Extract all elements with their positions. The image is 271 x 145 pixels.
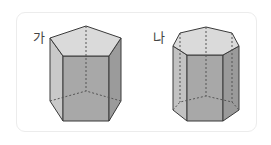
pentagonal-prism [50,26,121,121]
heptagonal-prism [173,27,239,121]
prisms-diagram [0,0,271,145]
